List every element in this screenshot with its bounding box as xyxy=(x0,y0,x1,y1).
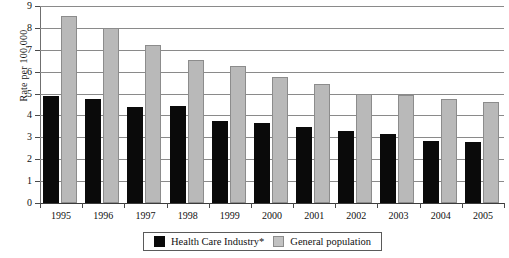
y-tick-label-7: 7 xyxy=(27,42,32,58)
bar-1998-series-1 xyxy=(188,60,204,203)
bar-1996-series-1 xyxy=(103,28,119,203)
y-tick-label-8: 8 xyxy=(27,20,32,36)
chart-legend: Health Care Industry* General population xyxy=(143,232,382,251)
bar-2003-series-0 xyxy=(380,134,396,203)
x-tick-mark-1998 xyxy=(167,203,168,208)
x-axis-label-2001: 2001 xyxy=(292,210,336,221)
legend-item-0: Health Care Industry* xyxy=(154,236,264,247)
y-tick-label-0: 0 xyxy=(27,195,32,211)
bar-1997-series-0 xyxy=(127,107,143,203)
bar-1995-series-0 xyxy=(43,96,59,203)
legend-item-1: General population xyxy=(273,236,371,247)
x-axis-label-1999: 1999 xyxy=(208,210,252,221)
bar-1999-series-1 xyxy=(230,66,246,203)
bar-2005-series-0 xyxy=(465,142,481,203)
bar-2001-series-1 xyxy=(314,84,330,203)
x-axis-label-2005: 2005 xyxy=(461,210,505,221)
bar-1997-series-1 xyxy=(145,45,161,203)
bar-group-1999 xyxy=(209,6,251,203)
x-axis-label-1998: 1998 xyxy=(166,210,210,221)
x-tick-mark-1995 xyxy=(40,203,41,208)
x-tick-mark-2002 xyxy=(335,203,336,208)
y-tick-label-9: 9 xyxy=(27,0,32,14)
bar-group-2001 xyxy=(293,6,335,203)
x-tick-mark-2000 xyxy=(251,203,252,208)
y-tick-3: 3 xyxy=(0,137,40,138)
y-tick-0: 0 xyxy=(0,203,40,204)
x-axis-label-2002: 2002 xyxy=(334,210,378,221)
bar-group-2000 xyxy=(251,6,293,203)
x-tick-mark-2003 xyxy=(377,203,378,208)
x-tick-mark-2001 xyxy=(293,203,294,208)
bar-1995-series-1 xyxy=(61,16,77,203)
x-axis: 1995199619971998199920002001200220032004… xyxy=(40,203,504,225)
x-tick-mark-2005 xyxy=(462,203,463,208)
bar-group-1995 xyxy=(40,6,82,203)
bar-group-2003 xyxy=(377,6,419,203)
x-axis-label-1995: 1995 xyxy=(39,210,83,221)
bar-1996-series-0 xyxy=(85,99,101,203)
bar-group-1997 xyxy=(124,6,166,203)
y-tick-6: 6 xyxy=(0,72,40,73)
bars-layer xyxy=(40,6,504,203)
x-axis-label-1997: 1997 xyxy=(123,210,167,221)
legend-label-0: Health Care Industry* xyxy=(171,236,264,247)
y-tick-label-6: 6 xyxy=(27,64,32,80)
bar-2000-series-0 xyxy=(254,123,270,203)
x-axis-label-2000: 2000 xyxy=(250,210,294,221)
x-tick-mark-1999 xyxy=(209,203,210,208)
x-axis-label-2003: 2003 xyxy=(377,210,421,221)
y-tick-label-2: 2 xyxy=(27,151,32,167)
y-tick-label-4: 4 xyxy=(27,107,32,123)
x-tick-mark-1996 xyxy=(82,203,83,208)
y-tick-7: 7 xyxy=(0,50,40,51)
bar-2001-series-0 xyxy=(296,127,312,203)
x-tick-mark-end xyxy=(504,203,505,208)
bar-1998-series-0 xyxy=(170,106,186,203)
bar-group-1998 xyxy=(167,6,209,203)
bar-chart: Rate per 100,000 9876543210 199519961997… xyxy=(0,0,509,258)
y-tick-label-3: 3 xyxy=(27,129,32,145)
x-tick-mark-2004 xyxy=(420,203,421,208)
y-tick-2: 2 xyxy=(0,159,40,160)
bar-2002-series-1 xyxy=(356,94,372,203)
plot-area xyxy=(40,6,504,203)
y-axis-ticks: 9876543210 xyxy=(0,6,40,203)
y-tick-1: 1 xyxy=(0,181,40,182)
bar-1999-series-0 xyxy=(212,121,228,203)
bar-2005-series-1 xyxy=(483,102,499,203)
y-tick-9: 9 xyxy=(0,6,40,7)
legend-swatch-icon-black xyxy=(154,236,165,247)
x-tick-mark-1997 xyxy=(124,203,125,208)
bar-2004-series-0 xyxy=(423,141,439,203)
y-tick-5: 5 xyxy=(0,94,40,95)
bar-group-2004 xyxy=(420,6,462,203)
x-axis-label-1996: 1996 xyxy=(81,210,125,221)
bar-group-1996 xyxy=(82,6,124,203)
bar-2004-series-1 xyxy=(441,99,457,203)
bar-2002-series-0 xyxy=(338,131,354,203)
bar-2000-series-1 xyxy=(272,77,288,203)
y-tick-label-5: 5 xyxy=(27,86,32,102)
y-tick-label-1: 1 xyxy=(27,173,32,189)
bar-group-2005 xyxy=(462,6,504,203)
y-tick-8: 8 xyxy=(0,28,40,29)
legend-swatch-icon-gray xyxy=(273,236,284,247)
bar-2003-series-1 xyxy=(398,95,414,203)
legend-label-1: General population xyxy=(290,236,371,247)
x-axis-label-2004: 2004 xyxy=(419,210,463,221)
y-tick-4: 4 xyxy=(0,115,40,116)
bar-group-2002 xyxy=(335,6,377,203)
